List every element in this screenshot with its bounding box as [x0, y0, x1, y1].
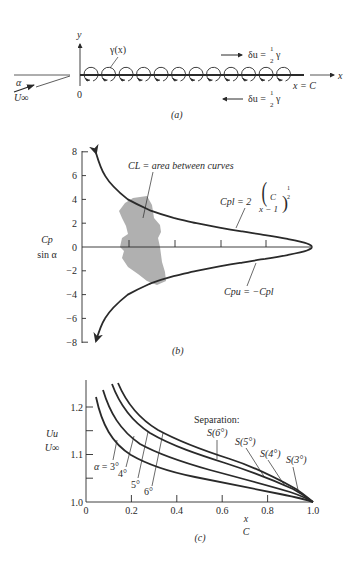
- cpu-formula: Cpu = −Cpl: [224, 286, 274, 297]
- origin-label: 0: [77, 89, 82, 100]
- upper-delta-u-prefix: δu =: [248, 49, 266, 60]
- cpl-formula-denominator: x − 1: [258, 204, 278, 214]
- y-axis-label-top: Uu: [46, 428, 58, 439]
- panel-a-caption: (a): [171, 109, 183, 121]
- freestream-velocity-label: U∞: [14, 92, 28, 103]
- y-tick-label: 0: [72, 242, 77, 253]
- angle-alpha-label: α: [16, 77, 22, 88]
- separation-label-6: S(6°): [207, 427, 228, 439]
- lower-fraction-numerator: 1: [270, 89, 274, 97]
- y-tick-label: −2: [66, 265, 77, 276]
- separation-label-5: S(5°): [235, 436, 256, 448]
- y-axis-ticks: [86, 407, 93, 478]
- curve-label-alpha-6: 6°: [144, 486, 153, 497]
- cpl-exponent-denominator: 2: [287, 194, 290, 200]
- leader-alpha-6: [152, 433, 163, 486]
- upper-fraction-denominator: 2: [270, 57, 274, 65]
- panel-c-caption: (c): [194, 532, 206, 544]
- panel-b-chart: 8 6 4 2 0 −2 −4 −6 −8 Cp sin α CL = area…: [37, 146, 311, 357]
- separation-label-4: S(4°): [260, 448, 281, 460]
- y-tick-label: 2: [72, 218, 77, 229]
- lift-coefficient-annotation: CL = area between curves: [128, 160, 234, 171]
- cpl-formula-numerator: C: [270, 192, 277, 202]
- x-tick-label: 0: [84, 505, 89, 516]
- lower-fraction-denominator: 2: [270, 101, 274, 109]
- curve-label-alpha-3-data: α = 3°: [94, 461, 119, 472]
- y-tick-label: −8: [66, 337, 77, 348]
- upper-gamma: γ: [275, 49, 281, 60]
- y-tick-label: 6: [72, 170, 77, 181]
- panel-b-caption: (b): [172, 345, 184, 357]
- leader-alpha-3: [113, 440, 117, 460]
- x-axis-label-top: x: [243, 513, 249, 524]
- plate-end-label: x = C: [292, 80, 316, 91]
- cpu-leader-line: [247, 263, 256, 286]
- x-tick-label: 1.0: [307, 505, 320, 516]
- y-tick-label: 1.1: [71, 449, 84, 460]
- x-tick-label: 0.8: [261, 505, 274, 516]
- panel-a-diagram: α U∞ y 0 x x = C γ(x): [14, 29, 343, 121]
- y-axis-label-bottom: sin α: [37, 249, 57, 260]
- curve-label-alpha-5: 5°: [131, 479, 140, 490]
- upper-fraction-numerator: 1: [270, 45, 274, 53]
- y-tick-label: 4: [72, 194, 77, 205]
- y-axis-label-bottom: U∞: [45, 442, 59, 453]
- cpl-leader-line: [236, 208, 245, 228]
- x-tick-label: 0.2: [125, 505, 138, 516]
- y-tick-label: 8: [72, 146, 77, 157]
- x-axis-label-bottom: C: [243, 526, 250, 537]
- separation-label-3: S(3°): [286, 454, 307, 466]
- x-tick-label: 0.6: [216, 505, 229, 516]
- y-tick-label: 1.0: [71, 497, 84, 508]
- lower-delta-u-prefix: δu =: [248, 93, 266, 104]
- lift-area-shading: [119, 196, 166, 285]
- cpl-formula-lhs: Cpl = 2: [220, 196, 251, 207]
- y-axis-label-top: Cp: [41, 234, 53, 245]
- lower-gamma: γ: [275, 93, 281, 104]
- cpl-exponent-numerator: 1: [287, 185, 290, 191]
- y-tick-label: −6: [66, 313, 77, 324]
- panel-c-chart: 1.2 1.1 1.0 0 0.2 0.4 0.6 0.8 1.0 Uu U∞ …: [45, 380, 319, 544]
- freestream-line: [36, 76, 70, 87]
- separation-title: Separation:: [194, 414, 240, 425]
- y-axis-label: y: [76, 29, 82, 40]
- y-tick-label: 1.2: [71, 402, 84, 413]
- leader-separation-3: [293, 467, 298, 490]
- vortex-strength-label: γ(x): [109, 44, 126, 56]
- y-tick-label: −4: [66, 289, 77, 300]
- x-axis-label: x: [337, 70, 343, 81]
- curve-alpha-5: [112, 384, 313, 502]
- x-tick-label: 0.4: [171, 505, 184, 516]
- curve-label-alpha-4: 4°: [118, 468, 127, 479]
- gamma-leader-line: [110, 57, 118, 68]
- cpl-formula-paren-left: (: [262, 176, 268, 208]
- figure: α U∞ y 0 x x = C γ(x): [0, 0, 356, 569]
- leader-alpha-5: [138, 432, 148, 478]
